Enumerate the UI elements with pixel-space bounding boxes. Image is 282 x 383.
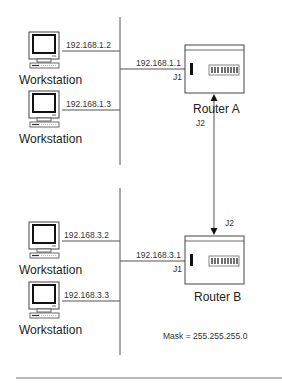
router-a-icon: [185, 45, 244, 93]
ws-a1-ip: 192.168.1.2: [66, 40, 111, 50]
router-a-j2-label: J2: [196, 118, 205, 128]
workstation-icon: [29, 222, 59, 258]
router-b-j1-label: J1: [173, 264, 182, 274]
router-a-label: Router A: [193, 102, 240, 116]
workstation-icon: [29, 32, 59, 68]
mask-note: Mask = 255.255.255.0: [163, 331, 247, 341]
ws-b2-label: Workstation: [19, 323, 82, 337]
ws-a2-ip: 192.168.1.3: [66, 99, 111, 109]
ws-b2-ip: 192.168.3.3: [64, 290, 109, 300]
router-a-j1-label: J1: [173, 72, 182, 82]
ws-a2-label: Workstation: [19, 132, 82, 146]
workstation-icon: [29, 91, 59, 127]
router-b-j2-label: J2: [225, 218, 234, 228]
ws-b1-label: Workstation: [19, 263, 82, 277]
router-b-label: Router B: [194, 290, 241, 304]
ws-b1-ip: 192.168.3.2: [64, 230, 109, 240]
router-b-j1-ip: 192.168.3.1: [136, 250, 181, 260]
workstation-icon: [29, 282, 59, 318]
router-a-j1-ip: 192.168.1.1: [136, 58, 181, 68]
arrow-down-icon: [211, 228, 218, 235]
arrow-up-icon: [211, 94, 218, 101]
router-b-icon: [185, 236, 244, 284]
ws-a1-label: Workstation: [19, 73, 82, 87]
